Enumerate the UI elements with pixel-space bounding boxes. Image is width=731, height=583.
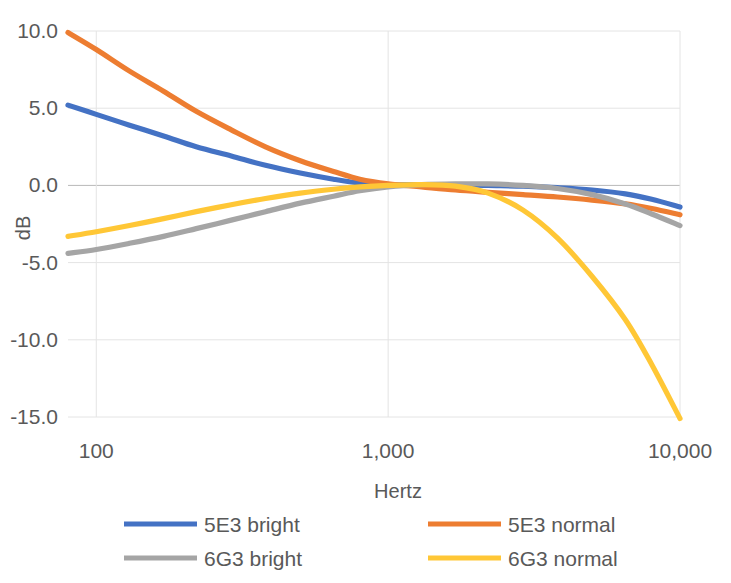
chart-container: 10.05.00.0-5.0-10.0-15.0 1001,00010,000 … xyxy=(0,0,731,583)
x-axis-title: Hertz xyxy=(374,480,422,502)
y-tick-label: -15.0 xyxy=(10,405,58,428)
legend-item[interactable]: 5E3 normal xyxy=(428,513,615,536)
legend-item[interactable]: 6G3 bright xyxy=(124,547,302,570)
legend-item-label: 6G3 bright xyxy=(204,547,302,570)
y-tick-label: -5.0 xyxy=(22,251,58,274)
x-tick-label: 100 xyxy=(79,439,114,462)
series-group xyxy=(68,33,680,419)
legend-item-label: 5E3 normal xyxy=(508,513,615,536)
series-line xyxy=(68,185,680,419)
x-tick-label: 1,000 xyxy=(362,439,415,462)
line-chart: 10.05.00.0-5.0-10.0-15.0 1001,00010,000 … xyxy=(0,0,731,583)
x-axis-tick-labels: 1001,00010,000 xyxy=(79,439,712,462)
y-tick-label: 5.0 xyxy=(29,96,58,119)
y-tick-label: -10.0 xyxy=(10,328,58,351)
chart-legend: 5E3 bright5E3 normal6G3 bright6G3 normal xyxy=(124,513,618,570)
legend-item-label: 5E3 bright xyxy=(204,513,300,536)
y-tick-label: 0.0 xyxy=(29,173,58,196)
legend-item[interactable]: 5E3 bright xyxy=(124,513,300,536)
legend-item-label: 6G3 normal xyxy=(508,547,618,570)
legend-item[interactable]: 6G3 normal xyxy=(428,547,618,570)
y-axis-title: dB xyxy=(12,216,34,240)
y-tick-label: 10.0 xyxy=(17,19,58,42)
x-tick-label: 10,000 xyxy=(648,439,712,462)
